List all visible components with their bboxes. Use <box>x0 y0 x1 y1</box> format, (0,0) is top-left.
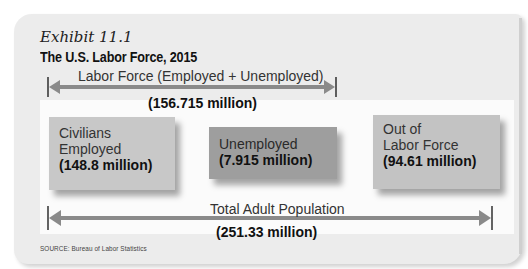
source-note: SOURCE: Bureau of Labor Statistics <box>40 244 147 253</box>
out-of-labor-force-box: Out of Labor Force (94.61 million) <box>373 115 500 189</box>
total-population-label: Total Adult Population <box>210 201 345 217</box>
employed-box: Civilians Employed (148.8 million) <box>49 117 175 190</box>
unemployed-line1: Unemployed <box>219 136 327 152</box>
employed-value: (148.8 million) <box>59 157 165 173</box>
labor-force-value: (156.715 million) <box>148 95 257 111</box>
unemployed-box: Unemployed (7.915 million) <box>209 127 337 179</box>
outlf-line2: Labor Force <box>383 137 490 153</box>
employed-line1: Civilians <box>59 125 165 141</box>
unemployed-value: (7.915 million) <box>219 152 327 168</box>
employed-line2: Employed <box>59 141 165 157</box>
outlf-value: (94.61 million) <box>383 153 490 169</box>
total-population-value: (251.33 million) <box>216 224 317 240</box>
labor-force-label: Labor Force (Employed + Unemployed) <box>78 68 324 84</box>
outlf-line1: Out of <box>383 121 490 137</box>
